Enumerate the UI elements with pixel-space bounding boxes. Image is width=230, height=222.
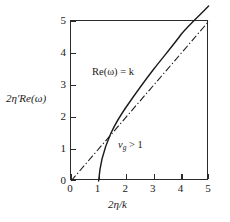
- y-tick-label-4: 4: [52, 46, 66, 58]
- y-axis-label-text: 2η′Re(ω): [6, 92, 46, 104]
- annotation-group-velocity: vg > 1: [118, 139, 143, 152]
- figure-container: 2η′Re(ω) 5 4 3 2 1 0 0 1 2 3 4 5 2η/k: [0, 0, 230, 222]
- annotation-vg-relation: > 1: [126, 139, 142, 150]
- x-tick-label-2: 2: [115, 182, 135, 194]
- x-tick-label-1: 1: [88, 182, 108, 194]
- y-tick-label-2: 2: [52, 110, 66, 122]
- x-tick-label-5: 5: [198, 182, 218, 194]
- y-tick-label-1: 1: [52, 142, 66, 154]
- chart-curves: [71, 21, 209, 181]
- reference-line-dashdot: [71, 21, 209, 181]
- plot-area: [70, 20, 208, 180]
- y-tick-label-5: 5: [52, 14, 66, 26]
- annotation-reference-line: Re(ω) = k: [92, 66, 134, 77]
- dispersion-curve-solid: [99, 6, 209, 181]
- x-tick-label-4: 4: [170, 182, 190, 194]
- x-axis-label: 2η/k: [108, 198, 127, 210]
- x-tick-label-3: 3: [143, 182, 163, 194]
- y-tick-label-3: 3: [52, 78, 66, 90]
- y-axis-label: 2η′Re(ω): [6, 92, 46, 104]
- x-axis-label-text: 2η/k: [108, 198, 127, 210]
- x-tick-label-0: 0: [60, 182, 80, 194]
- annotation-reference-line-text: Re(ω) = k: [92, 66, 134, 77]
